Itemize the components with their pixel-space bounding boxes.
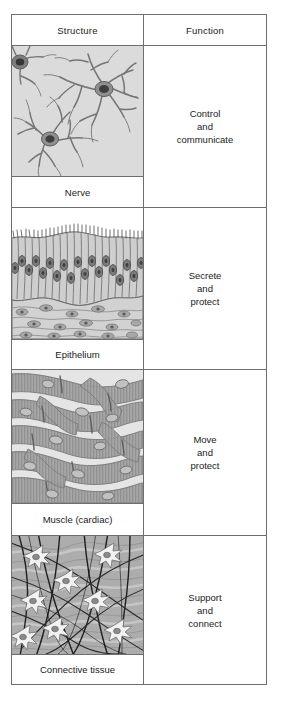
function-line: Move: [190, 433, 219, 446]
structure-cell-nerve: Nerve: [12, 46, 144, 207]
nerve-tissue-illustration: [12, 46, 143, 176]
function-line: and: [189, 282, 222, 295]
function-cell-muscle: Move and protect: [144, 370, 266, 535]
function-line: communicate: [177, 133, 234, 146]
connective-tissue-micrograph: [12, 536, 143, 655]
structure-cell-epithelium: Epithelium: [12, 208, 144, 369]
structure-cell-muscle: Muscle (cardiac): [12, 370, 144, 535]
table-row: Epithelium Secrete and protect: [12, 208, 266, 370]
function-line: Support: [188, 591, 221, 604]
function-text-epithelium: Secrete and protect: [189, 269, 222, 308]
function-line: and: [177, 120, 234, 133]
function-cell-nerve: Control and communicate: [144, 46, 266, 207]
table-row: Nerve Control and communicate: [12, 46, 266, 208]
tissue-caption-muscle: Muscle (cardiac): [12, 504, 143, 535]
tissue-caption-connective: Connective tissue: [12, 655, 143, 684]
epithelium-tissue-illustration: [12, 208, 143, 339]
function-line: protect: [189, 295, 222, 308]
nerve-tissue-micrograph: [12, 46, 143, 177]
table-row: Muscle (cardiac) Move and protect: [12, 370, 266, 536]
cardiac-muscle-illustration: [12, 370, 143, 503]
function-line: and: [190, 446, 219, 459]
table-row: Connective tissue Support and connect: [12, 536, 266, 684]
function-line: and: [188, 604, 221, 617]
function-line: Secrete: [189, 269, 222, 282]
structure-cell-connective: Connective tissue: [12, 536, 144, 684]
epithelium-tissue-micrograph: [12, 208, 143, 340]
cardiac-muscle-micrograph: [12, 370, 143, 504]
function-cell-connective: Support and connect: [144, 536, 266, 684]
tissue-types-figure: Structure Function: [0, 0, 285, 704]
function-cell-epithelium: Secrete and protect: [144, 208, 266, 369]
function-line: protect: [190, 459, 219, 472]
tissue-caption-nerve: Nerve: [12, 177, 143, 207]
function-line: connect: [188, 617, 221, 630]
column-header-structure: Structure: [12, 15, 144, 45]
function-line: Control: [177, 107, 234, 120]
function-text-muscle: Move and protect: [190, 433, 219, 472]
column-header-function: Function: [144, 15, 266, 45]
tissue-table: Structure Function: [11, 14, 267, 685]
function-text-connective: Support and connect: [188, 591, 221, 630]
function-text-nerve: Control and communicate: [177, 107, 234, 146]
connective-tissue-illustration: [12, 536, 143, 654]
tissue-caption-epithelium: Epithelium: [12, 340, 143, 369]
table-header-row: Structure Function: [12, 15, 266, 46]
